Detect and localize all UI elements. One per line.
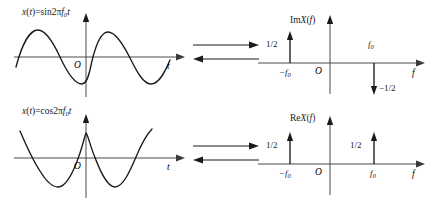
positive-f0-tick-label: f0: [368, 40, 374, 50]
origin-label: O: [74, 60, 81, 70]
y-axis-arrowhead: [327, 15, 333, 24]
t-axis-arrowhead: [176, 54, 185, 61]
imaginary-spectrum-panel: O f ImX(f) 1/2 −f0 f0 −1/2: [252, 0, 434, 101]
real-spectrum-panel: O f ReX(f) 1/2 1/2 −f0 f0: [252, 101, 434, 202]
f-axis-label: f: [412, 169, 416, 179]
t-axis-label: t: [167, 61, 170, 71]
impulse-positive-f0-arrowhead: [371, 86, 377, 95]
imaginary-spectrum-svg: O f: [252, 0, 434, 101]
impulse-negative-f0-arrowhead: [287, 132, 293, 141]
t-axis-label: t: [167, 162, 170, 172]
real-spectrum-svg: O f: [252, 101, 434, 202]
real-axis-title: ReX(f): [290, 114, 315, 124]
negative-f0-tick-label: −f0: [279, 68, 291, 78]
impulse-positive-f0-arrowhead: [371, 132, 377, 141]
impulse-positive-f0-value-label: 1/2: [350, 141, 362, 150]
f-axis-arrowhead: [416, 60, 425, 67]
inverse-transform-arrowhead: [193, 157, 203, 164]
sine-time-domain-panel: O t x(t)=sin2πf0t: [0, 0, 200, 101]
f-axis-label: f: [412, 68, 416, 78]
origin-label: O: [74, 161, 81, 171]
impulse-negative-f0-value-label: 1/2: [266, 141, 278, 150]
impulse-positive-f0-value-label: −1/2: [379, 84, 396, 93]
impulse-negative-f0-value-label: 1/2: [266, 40, 278, 49]
cosine-time-domain-panel: O t x(t)=cos2πf0t: [0, 101, 200, 202]
y-axis-arrowhead: [327, 116, 333, 125]
positive-f0-tick-label: f0: [370, 169, 376, 179]
inverse-transform-arrowhead: [193, 56, 203, 63]
cosine-expression-label: x(t)=cos2πf0t: [22, 107, 71, 117]
origin-label: O: [315, 66, 322, 76]
y-axis-arrowhead: [83, 114, 89, 123]
negative-f0-tick-label: −f0: [279, 169, 291, 179]
imaginary-axis-title: ImX(f): [290, 16, 315, 26]
fourier-transform-pairs-figure: O t x(t)=sin2πf0t: [0, 0, 434, 202]
sine-expression-label: x(t)=sin2πf0t: [22, 8, 70, 18]
y-axis-arrowhead: [83, 13, 89, 22]
origin-label: O: [315, 167, 322, 177]
impulse-negative-f0-arrowhead: [287, 31, 293, 40]
t-axis-arrowhead: [176, 155, 185, 162]
f-axis-arrowhead: [416, 161, 425, 168]
